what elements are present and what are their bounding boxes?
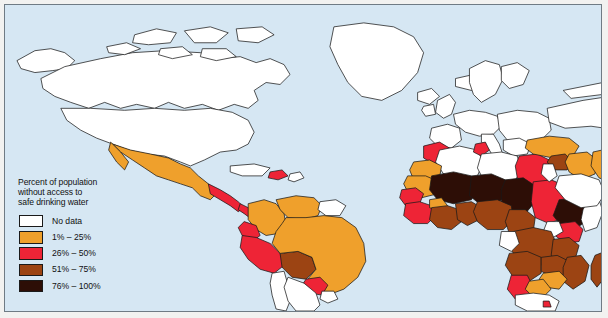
legend-swatch-76-100 xyxy=(19,280,43,293)
legend-swatch-1-25 xyxy=(19,231,43,244)
legend-title: Percent of population without access to … xyxy=(18,177,144,208)
region-south-america xyxy=(238,196,366,311)
world-map-figure: .c { stroke:#1a1a1a; stroke-width:0.75; … xyxy=(0,0,608,318)
legend-swatch-no-data xyxy=(19,215,43,228)
legend-label-1-25: 1% – 25% xyxy=(52,233,91,242)
map-frame: .c { stroke:#1a1a1a; stroke-width:0.75; … xyxy=(4,4,602,312)
map-legend: Percent of population without access to … xyxy=(16,177,144,295)
legend-item-76-100: 76% – 100% xyxy=(16,278,144,293)
legend-label-76-100: 76% – 100% xyxy=(52,282,101,291)
legend-item-1-25: 1% – 25% xyxy=(16,230,144,245)
legend-label-51-75: 51% – 75% xyxy=(52,265,96,274)
legend-label-26-50: 26% – 50% xyxy=(52,249,96,258)
legend-label-no-data: No data xyxy=(52,217,82,226)
legend-swatch-26-50 xyxy=(19,247,43,260)
legend-swatch-51-75 xyxy=(19,264,43,277)
legend-item-no-data: No data xyxy=(16,214,144,229)
legend-item-26-50: 26% – 50% xyxy=(16,246,144,261)
legend-item-51-75: 51% – 75% xyxy=(16,262,144,277)
